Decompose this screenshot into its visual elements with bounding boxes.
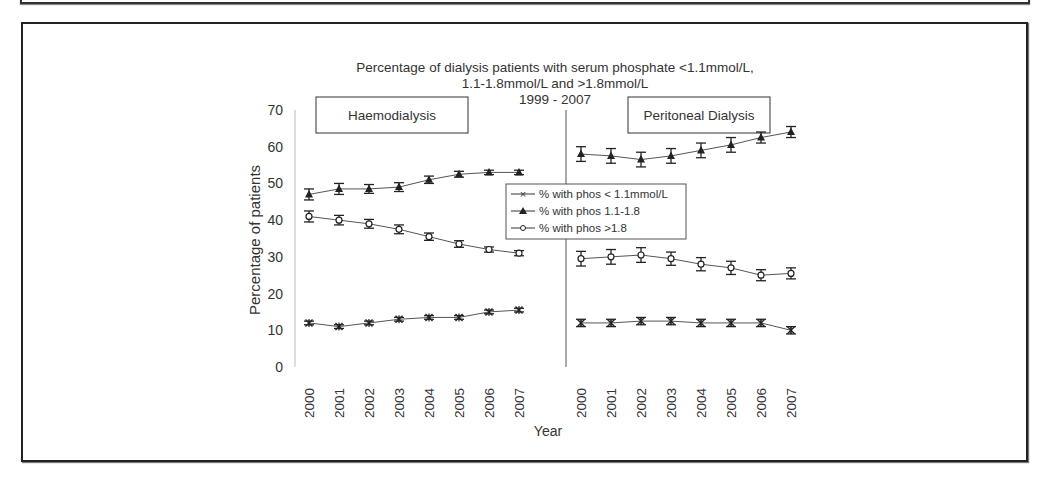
x-tick-label: 2006 [482,388,497,418]
circle-marker-icon [306,213,312,219]
x-tick-label: 2000 [574,388,589,418]
circle-marker-icon [758,272,764,278]
svg-text:Peritoneal Dialysis: Peritoneal Dialysis [643,108,754,123]
series-line [304,306,524,331]
x-marker-icon: × [520,188,526,200]
triangle-marker-icon [607,151,615,159]
y-tick-label: 20 [267,286,283,302]
circle-marker-icon [608,254,614,260]
x-tick-label: 2003 [664,388,679,418]
circle-marker-icon [788,270,794,276]
x-tick-label: 2004 [422,387,437,418]
circle-marker-icon [698,261,704,267]
svg-text:Haemodialysis: Haemodialysis [348,108,436,123]
circle-marker-icon [486,247,492,253]
x-tick-label: 2001 [604,388,619,418]
y-tick-label: 70 [267,102,283,118]
series-line [576,248,796,281]
circle-marker-icon [336,217,342,223]
x-tick-label: 2005 [452,388,467,418]
circle-marker-icon [396,226,402,232]
y-tick-label: 50 [267,175,283,191]
x-tick-label: 2007 [512,388,527,418]
panel-label-haemodialysis: Haemodialysis [316,97,468,133]
circle-marker-icon [516,250,522,256]
x-tick-label: 2002 [634,388,649,418]
y-tick-label: 0 [275,359,283,375]
svg-text:% with phos 1.1-1.8: % with phos 1.1-1.8 [539,205,640,217]
series-line [576,317,796,334]
triangle-marker-icon [365,184,373,192]
legend: × % with phos < 1.1mmol/L % with phos 1.… [506,184,686,239]
x-tick-label: 2004 [694,387,709,418]
circle-marker-icon [426,234,432,240]
x-tick-label: 2001 [332,388,347,418]
y-tick-label: 40 [267,212,283,228]
circle-marker-icon [668,256,674,262]
triangle-marker-icon [787,128,795,135]
series-line [304,211,524,256]
triangle-marker-icon [577,150,585,158]
triangle-marker-icon [515,168,523,176]
title-line-3: 1999 - 2007 [519,92,591,107]
title-line-1: Percentage of dialysis patients with ser… [356,60,753,75]
panel-label-peritoneal: Peritoneal Dialysis [628,97,770,133]
x-tick-label: 2000 [302,388,317,418]
y-axis-label: Percentage of patients [246,165,263,315]
svg-text:% with phos >1.8: % with phos >1.8 [539,222,627,234]
title-line-2: 1.1-1.8mmol/L and >1.8mmol/L [462,76,649,91]
triangle-marker-icon [335,184,343,192]
svg-text:% with phos < 1.1mmol/L: % with phos < 1.1mmol/L [539,188,668,200]
circle-marker-icon [638,252,644,258]
y-tick-label: 60 [267,139,283,155]
series-line [304,168,524,200]
triangle-marker-icon [485,168,493,176]
x-tick-label: 2007 [784,388,799,418]
x-axis-ticks: 2000200120022003200420052006200720002001… [302,387,799,418]
x-tick-label: 2006 [754,388,769,418]
y-tick-label: 10 [267,322,283,338]
circle-marker-icon [521,226,526,231]
circle-marker-icon [578,256,584,262]
y-axis-ticks: 010203040506070 [267,102,283,375]
y-tick-label: 30 [267,249,283,265]
x-tick-label: 2003 [392,388,407,418]
x-tick-label: 2005 [724,388,739,418]
x-axis-label: Year [534,423,563,439]
circle-marker-icon [728,265,734,271]
x-tick-label: 2002 [362,388,377,418]
chart-canvas: Percentage of dialysis patients with ser… [0,0,1064,484]
circle-marker-icon [456,241,462,247]
circle-marker-icon [366,221,372,227]
